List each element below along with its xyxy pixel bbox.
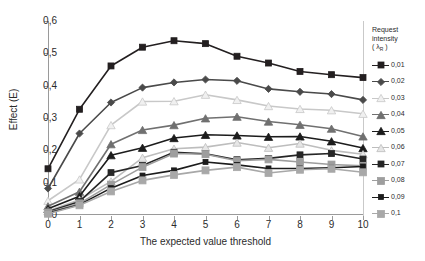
legend-key-icon (372, 126, 389, 136)
x-tick-label: 6 (225, 219, 249, 230)
legend-label: 0,1 (391, 209, 401, 218)
legend-label: 0,09 (391, 193, 405, 202)
legend-item-0-01[interactable]: 0,01 (372, 57, 425, 74)
legend-label: 0,04 (391, 110, 405, 119)
x-tick-label: 1 (68, 219, 92, 230)
legend: Request intensity ( λR ) 0,010,020,030,0… (372, 26, 425, 222)
legend-key-icon (372, 143, 389, 153)
legend-marker-icon (375, 175, 387, 187)
legend-key-icon (372, 110, 389, 120)
y-tick-label: 0,6 (23, 16, 57, 26)
chart-container: 00,10,20,30,40,50,6 012345678910 Effect … (0, 0, 425, 261)
legend-item-0-06[interactable]: 0,06 (372, 139, 425, 156)
y-tick-label: 0,1 (23, 178, 57, 188)
legend-label: 0,06 (391, 143, 405, 152)
y-tick-label: 0,4 (23, 81, 57, 91)
legend-item-0-08[interactable]: 0,08 (372, 172, 425, 189)
legend-marker-icon (375, 59, 387, 71)
x-tick-label: 8 (288, 219, 312, 230)
x-tick-label: 3 (131, 219, 155, 230)
legend-label: 0,03 (391, 94, 405, 103)
y-tick-label: 0,2 (23, 145, 57, 155)
legend-label: 0,02 (391, 77, 405, 86)
legend-label: 0,07 (391, 160, 405, 169)
legend-key-icon (372, 159, 389, 169)
legend-lambda-pre: ( λ (372, 43, 380, 50)
legend-marker-icon (375, 92, 387, 104)
legend-label: 0,05 (391, 127, 405, 136)
legend-key-icon (372, 176, 389, 186)
x-tick-label: 0 (36, 219, 60, 230)
legend-marker-icon (375, 208, 387, 220)
legend-key-icon (372, 192, 389, 202)
legend-marker-icon (375, 109, 387, 121)
legend-key-icon (372, 60, 389, 70)
legend-item-0-07[interactable]: 0,07 (372, 156, 425, 173)
legend-marker-icon (375, 142, 387, 154)
legend-item-0-04[interactable]: 0,04 (372, 106, 425, 123)
legend-marker-icon (375, 191, 387, 203)
legend-marker-icon (375, 76, 387, 88)
legend-marker-icon (375, 158, 387, 170)
legend-label: 0,01 (391, 61, 405, 70)
legend-lambda-post: ) (383, 43, 387, 50)
legend-key-icon (372, 93, 389, 103)
x-tick-label: 5 (194, 219, 218, 230)
x-tick-label: 9 (320, 219, 344, 230)
legend-title: Request intensity ( λR ) (372, 26, 425, 54)
legend-title-line2: intensity (372, 35, 425, 44)
legend-item-0-09[interactable]: 0,09 (372, 189, 425, 206)
legend-item-0-1[interactable]: 0,1 (372, 205, 425, 222)
y-tick-label: 0,3 (23, 113, 57, 123)
y-tick-label: 0,5 (23, 48, 57, 58)
legend-marker-icon (375, 125, 387, 137)
y-axis-label: Effect (E) (8, 70, 19, 150)
legend-title-line3: ( λR ) (372, 43, 425, 54)
legend-key-icon (372, 209, 389, 219)
x-tick-label: 4 (162, 219, 186, 230)
legend-item-0-05[interactable]: 0,05 (372, 123, 425, 140)
legend-items: 0,010,020,030,040,050,060,070,080,090,1 (372, 57, 425, 222)
x-tick-label: 7 (257, 219, 281, 230)
x-axis-label: The expected value threshold (48, 236, 363, 247)
legend-label: 0,08 (391, 176, 405, 185)
legend-key-icon (372, 77, 389, 87)
x-tick-label: 2 (99, 219, 123, 230)
legend-title-line1: Request (372, 26, 425, 35)
legend-item-0-03[interactable]: 0,03 (372, 90, 425, 107)
legend-item-0-02[interactable]: 0,02 (372, 73, 425, 90)
